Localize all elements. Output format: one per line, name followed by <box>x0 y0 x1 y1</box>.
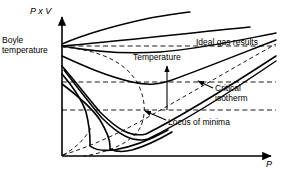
coexistence-dashed-origin <box>63 126 92 155</box>
annotation-arrows <box>145 66 213 120</box>
locus-of-minima-leader <box>145 111 166 120</box>
locus-of-minima-label: Locus of minima <box>168 118 230 128</box>
y-axis-label: P x V <box>30 6 51 16</box>
boyle-temperature-label: Boyle temperature <box>2 36 48 55</box>
x-axis-label: P <box>266 159 272 169</box>
isotherm-curves <box>62 12 276 151</box>
pv-vs-p-diagram: P x V P Boyle temperature Ideal gas resu… <box>0 0 282 184</box>
subcritical-isotherm-2 <box>62 84 172 151</box>
critical-isotherm-label: Critical isotherm <box>215 84 248 103</box>
ideal-gas-results-label: Ideal gas results <box>196 38 258 48</box>
temperature-label: Temperature <box>133 53 181 63</box>
